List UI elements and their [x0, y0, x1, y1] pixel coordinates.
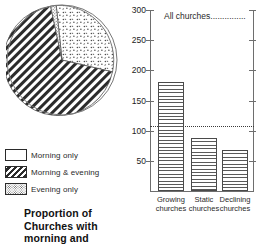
legend-label-morning-only: Morning only	[31, 151, 78, 160]
pie-chart-svg	[6, 4, 118, 116]
x-label-growing-line2: churches	[153, 205, 189, 214]
y-tick-right-50	[249, 161, 256, 162]
bar-declining-churches	[222, 150, 248, 191]
bar-chart-panel: 300 250 200 150 100 50 All churches.....…	[128, 0, 256, 249]
x-axis	[150, 191, 254, 192]
x-label-declining-line2: churches	[217, 205, 253, 214]
y-tick-label-50: 50	[126, 157, 146, 165]
y-tick-right-200	[249, 70, 256, 71]
y-tick-label-300: 300	[126, 6, 146, 14]
y-tick-300	[146, 10, 154, 11]
y-tick-right-250	[249, 40, 256, 41]
legend-swatch-morning-only	[5, 149, 27, 161]
bar-growing-churches	[158, 82, 184, 191]
y-tick-right-300	[249, 10, 256, 11]
y-tick-200	[146, 70, 154, 71]
all-churches-annotation-label: All churches...............	[164, 11, 246, 21]
y-tick-right-100	[249, 131, 256, 132]
y-tick-250	[146, 40, 154, 41]
pie-chart-panel: Morning only Morning & evening Evening o…	[0, 0, 128, 249]
y-tick-100	[146, 131, 154, 132]
bar-static-churches	[191, 138, 217, 191]
y-tick-label-250: 250	[126, 36, 146, 44]
y-tick-50	[146, 161, 154, 162]
legend-item-evening-only: Evening only	[5, 181, 125, 197]
y-tick-label-100: 100	[126, 127, 146, 135]
legend-item-morning-and-evening: Morning & evening	[5, 164, 125, 180]
y-tick-right-150	[249, 101, 256, 102]
pie-legend: Morning only Morning & evening Evening o…	[5, 147, 125, 198]
legend-label-evening-only: Evening only	[31, 185, 78, 194]
bar-chart-plot-area: 300 250 200 150 100 50 All churches.....…	[150, 10, 254, 192]
legend-label-morning-and-evening: Morning & evening	[31, 168, 99, 177]
y-tick-label-150: 150	[126, 97, 146, 105]
y-tick-label-200: 200	[126, 66, 146, 74]
y-tick-150	[146, 101, 154, 102]
legend-swatch-evening-only	[5, 183, 27, 195]
legend-item-morning-only: Morning only	[5, 147, 125, 163]
legend-swatch-morning-and-evening	[5, 166, 27, 178]
x-label-growing-churches: Growing churches	[153, 196, 189, 213]
x-label-declining-churches: Declining churches	[217, 196, 253, 213]
pie-chart-caption: Proportion of Churches with morning and	[24, 207, 128, 245]
pie-chart	[6, 4, 118, 116]
figure-root: Morning only Morning & evening Evening o…	[0, 0, 256, 249]
